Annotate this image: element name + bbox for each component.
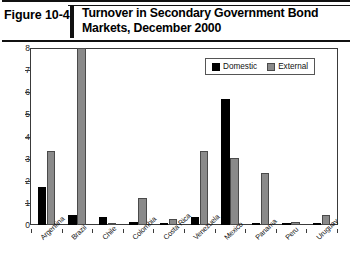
legend-swatch-external-icon: [267, 63, 275, 71]
bar-chart: 012345678 ArgentinaBrazilChileColombiaCo…: [0, 44, 352, 275]
x-tick-mark: [92, 229, 93, 233]
bar-domestic-chile: [99, 217, 108, 225]
x-tick-mark: [276, 229, 277, 233]
x-axis-label: Uruguay: [315, 217, 340, 241]
bar-domestic-colombia: [129, 222, 138, 225]
x-axis-label: Costa Rica: [162, 212, 193, 242]
figure-number: Figure 10-4: [4, 8, 66, 22]
legend-entry-domestic: Domestic: [212, 62, 257, 71]
x-tick-mark: [31, 229, 32, 233]
header-rule-bottom: [2, 40, 350, 42]
bar-domestic-brazil: [68, 215, 77, 225]
chart-legend: DomesticExternal: [205, 58, 315, 75]
figure-title: Turnover in Secondary Government Bond Ma…: [82, 6, 348, 36]
y-tick-label: 8: [14, 44, 30, 52]
bar-external-panama: [261, 173, 270, 225]
bar-external-argentina: [47, 151, 56, 225]
bar-external-brazil: [77, 48, 86, 225]
x-axis-label: Brazil: [70, 224, 88, 242]
x-axis-label: Peru: [284, 226, 300, 242]
x-tick-mark: [153, 229, 154, 233]
figure-header: Figure 10-4 Turnover in Secondary Govern…: [0, 0, 352, 44]
y-axis: 012345678: [0, 44, 30, 229]
legend-label: Domestic: [223, 62, 257, 71]
header-divider: [70, 6, 74, 38]
bar-domestic-costa-rica: [160, 223, 169, 225]
x-tick-mark: [215, 229, 216, 233]
x-tick-mark: [62, 229, 63, 233]
y-tick-label: 0: [14, 221, 30, 229]
bar-domestic-uruguay: [313, 223, 322, 225]
bar-domestic-venezuela: [191, 217, 200, 225]
bar-domestic-panama: [252, 223, 261, 225]
header-rule-top: [2, 0, 350, 2]
x-tick-mark: [337, 229, 338, 233]
x-tick-mark: [123, 229, 124, 233]
bar-external-venezuela: [200, 151, 209, 225]
x-axis-label: Chile: [101, 225, 118, 242]
bar-domestic-peru: [282, 223, 291, 225]
legend-swatch-domestic-icon: [212, 63, 220, 71]
x-tick-mark: [184, 229, 185, 233]
legend-entry-external: External: [267, 62, 308, 71]
x-tick-mark: [306, 229, 307, 233]
x-tick-mark: [245, 229, 246, 233]
bar-domestic-argentina: [38, 187, 47, 225]
bar-domestic-mexico: [221, 99, 230, 225]
bar-external-mexico: [230, 158, 239, 225]
legend-label: External: [278, 62, 308, 71]
